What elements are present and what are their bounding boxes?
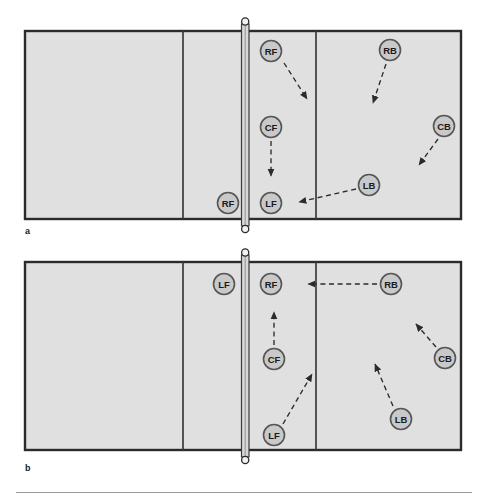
player-marker[interactable]: RB (381, 274, 402, 295)
panel-a: RF RF CF LF RB (0, 0, 484, 250)
court-diagram-a: RF RF CF LF RB (0, 0, 484, 250)
player-marker[interactable]: RF (218, 193, 239, 214)
player-label: LF (265, 198, 277, 209)
player-marker[interactable]: RF (261, 41, 282, 62)
player-marker[interactable]: LF (214, 274, 235, 295)
player-label: RF (265, 279, 278, 290)
player-marker[interactable]: LB (391, 409, 412, 430)
player-marker[interactable]: LB (359, 175, 380, 196)
court-surface-b (25, 262, 461, 450)
player-label: LF (218, 279, 230, 290)
player-label: LB (395, 414, 408, 425)
player-label: LB (363, 180, 376, 191)
player-marker[interactable]: CF (264, 349, 285, 370)
player-label: RB (384, 279, 398, 290)
panel-label-b: b (25, 463, 31, 473)
players-b: LF RF CF LF RB (214, 274, 456, 446)
net-a (242, 18, 250, 233)
figure-root: RF RF CF LF RB (0, 0, 484, 498)
arrow-lf-b (283, 374, 312, 424)
net-b (242, 249, 250, 464)
player-marker[interactable]: RF (261, 274, 282, 295)
player-label: RB (383, 45, 397, 56)
player-label: LF (268, 430, 280, 441)
player-marker[interactable]: CF (261, 117, 282, 138)
player-marker[interactable]: CB (435, 348, 456, 369)
arrow-cb-b (416, 324, 436, 347)
footer-divider (16, 492, 472, 493)
player-label: CF (265, 122, 278, 133)
player-marker[interactable]: RB (380, 40, 401, 61)
net-post-top-a (242, 18, 249, 25)
player-marker[interactable]: LF (261, 193, 282, 214)
player-marker[interactable]: LF (264, 425, 285, 446)
player-label: CF (268, 354, 281, 365)
player-label: RF (222, 198, 235, 209)
player-marker[interactable]: CB (434, 116, 455, 137)
net-post-bottom-a (242, 225, 249, 232)
player-label: RF (265, 46, 278, 57)
panel-label-a: a (25, 226, 30, 236)
player-label: CB (438, 353, 452, 364)
movement-arrows-b (274, 284, 436, 424)
arrow-lb-b (375, 364, 393, 406)
net-post-bottom-b (242, 456, 249, 463)
player-label: CB (437, 121, 451, 132)
